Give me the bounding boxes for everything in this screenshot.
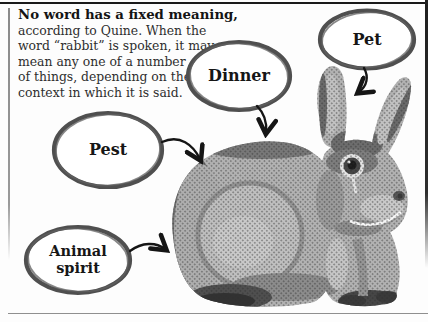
bubble-label-animal-spirit: Animal spirit <box>33 242 123 276</box>
arrow-animal-spirit <box>130 244 165 251</box>
bubble-label-pest: Pest <box>66 140 150 159</box>
arrow-dinner <box>257 106 266 132</box>
bubble-label-pet: Pet <box>330 30 404 49</box>
bubble-label-dinner: Dinner <box>197 66 281 85</box>
arrow-pest <box>162 139 200 159</box>
page: No word has a fixed meaning, according t… <box>0 0 428 322</box>
arrow-pet <box>359 68 367 92</box>
bubble-label-animal-line2: spirit <box>33 259 123 276</box>
bubble-label-animal-line1: Animal <box>33 242 123 259</box>
